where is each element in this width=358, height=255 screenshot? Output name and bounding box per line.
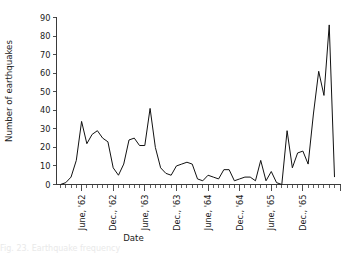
y-axis-title: Number of earthquakes [4,40,14,142]
x-tick-label: Dec., '62 [108,195,118,231]
x-tick-label: June, '64 [203,195,213,232]
data-series [61,25,335,185]
x-tick-label: June, '65 [266,195,276,232]
y-tick-label: 50 [40,87,50,97]
y-tick-label: 60 [40,68,50,78]
y-tick-label: 40 [40,105,50,115]
y-tick-label: 0 [45,180,50,190]
figure-caption: Fig. 23. Earthquake frequency [0,243,160,255]
y-tick-label: 80 [40,31,50,41]
y-tick-label: 20 [40,142,50,152]
series-line [61,25,335,185]
x-axis-title: Date [123,233,144,243]
axis-labels: DateNumber of earthquakes [4,40,144,243]
y-tick-label: 90 [40,13,50,23]
x-tick-label: June, '62 [77,195,87,232]
y-tick-label: 30 [40,124,50,134]
x-axis: June, '62Dec., '62June, '63Dec., '63June… [57,185,341,232]
line-chart: 0102030405060708090 June, '62Dec., '62Ju… [0,0,358,255]
y-tick-label: 70 [40,50,50,60]
y-tick-label: 10 [40,161,50,171]
x-tick-label: Dec., '65 [298,195,308,231]
earthquake-frequency-figure: 0102030405060708090 June, '62Dec., '62Ju… [0,0,358,255]
x-tick-label: Dec., '64 [235,195,245,231]
y-axis: 0102030405060708090 [40,13,56,190]
x-tick-label: June, '63 [140,195,150,232]
x-tick-label: Dec., '63 [172,195,182,231]
